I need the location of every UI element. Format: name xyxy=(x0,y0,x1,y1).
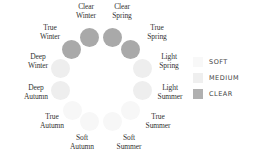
swatch-clear xyxy=(193,89,203,99)
circle-soft-summer xyxy=(103,112,122,131)
legend-label-soft: SOFT xyxy=(209,57,228,67)
label-clear-winter: Clear Winter xyxy=(70,3,102,20)
label-deep-autumn: Deep Autumn xyxy=(19,84,53,101)
circle-light-spring xyxy=(133,59,152,78)
label-clear-spring: Clear Spring xyxy=(106,3,138,20)
label-true-autumn: True Autumn xyxy=(35,113,69,130)
label-line2: Summer xyxy=(112,143,146,152)
swatch-soft xyxy=(193,57,203,67)
label-light-summer: Light Summer xyxy=(153,84,187,101)
label-line2: Winter xyxy=(34,33,66,42)
label-line2: Summer xyxy=(141,122,175,131)
label-line2: Spring xyxy=(141,33,173,42)
label-deep-winter: Deep Winter xyxy=(22,53,54,70)
label-true-spring: True Spring xyxy=(141,24,173,41)
circle-true-spring xyxy=(121,40,140,59)
label-true-summer: True Summer xyxy=(141,113,175,130)
label-line2: Autumn xyxy=(35,122,69,131)
circle-clear-winter xyxy=(80,28,99,47)
label-light-spring: Light Spring xyxy=(153,53,185,70)
label-line2: Spring xyxy=(153,62,185,71)
swatch-medium xyxy=(193,73,203,83)
circle-true-summer xyxy=(121,101,140,120)
circle-soft-autumn xyxy=(80,112,99,131)
circle-true-winter xyxy=(62,40,81,59)
label-line2: Summer xyxy=(153,93,187,102)
label-line2: Autumn xyxy=(65,143,99,152)
label-soft-autumn: Soft Autumn xyxy=(65,134,99,151)
legend-label-medium: MEDIUM xyxy=(209,73,239,83)
label-line2: Winter xyxy=(70,12,102,21)
circle-deep-autumn xyxy=(51,81,70,100)
label-line2: Winter xyxy=(22,62,54,71)
label-line2: Spring xyxy=(106,12,138,21)
label-line2: Autumn xyxy=(19,93,53,102)
circle-light-summer xyxy=(133,81,152,100)
circle-clear-spring xyxy=(103,28,122,47)
label-soft-summer: Soft Summer xyxy=(112,134,146,151)
legend-label-clear: CLEAR xyxy=(209,89,233,99)
label-true-winter: True Winter xyxy=(34,24,66,41)
